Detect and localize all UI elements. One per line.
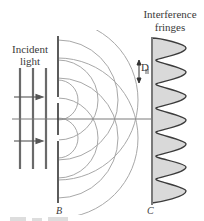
fringe-intensity-curve <box>152 38 186 203</box>
barrier-label: B <box>56 205 62 216</box>
screen-label: C <box>147 205 154 216</box>
incident-light-label-line2: light <box>20 55 40 67</box>
caption-remnant <box>10 217 68 221</box>
incident-light-label-line1: Incident <box>12 43 48 55</box>
fringes-label-line1: Interference <box>143 8 196 20</box>
double-slit-diagram: Incident light Interference fringes <box>0 0 204 221</box>
spacing-label: D <box>141 61 149 73</box>
fringes-label-line2: fringes <box>155 21 186 33</box>
